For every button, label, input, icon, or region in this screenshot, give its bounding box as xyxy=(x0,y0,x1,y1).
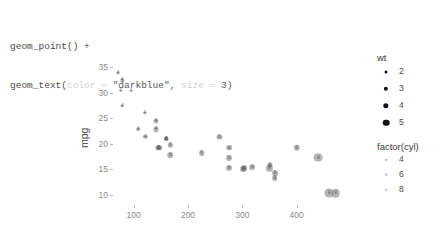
legend-factor-cyl-entry[interactable]: 6 xyxy=(377,167,419,182)
legend-factor-cyl-entries: 468 xyxy=(377,152,419,197)
data-point-label: 8 xyxy=(227,145,230,151)
legend-factor-cyl-dot-icon xyxy=(377,152,395,167)
y-tick-label: 30 xyxy=(82,88,108,98)
data-point-label: 4 xyxy=(154,119,157,125)
data-point-label: 8 xyxy=(227,166,230,172)
y-tick-mark xyxy=(110,195,113,196)
legend-wt-entry[interactable]: 5 xyxy=(377,114,387,131)
scatter-plot: mpg disp 101520253035 100200300400 44444… xyxy=(0,48,370,241)
x-tick-mark xyxy=(297,205,298,208)
data-point-label: 4 xyxy=(119,88,122,94)
legend-wt-label: 2 xyxy=(399,66,404,76)
legend-wt-label: 5 xyxy=(399,117,404,127)
plot-screenshot: geom_point() + geom_text(color = "darkbl… xyxy=(0,0,443,241)
y-tick-mark xyxy=(110,67,113,68)
data-point-label: 8 xyxy=(250,164,253,170)
data-point-label: 8 xyxy=(273,175,276,181)
y-tick-mark xyxy=(110,93,113,94)
data-point-label: 8 xyxy=(295,145,298,151)
legend-wt-label: 4 xyxy=(399,100,404,110)
legend-factor-cyl: factor(cyl) 468 xyxy=(377,141,419,197)
data-point-label: 4 xyxy=(136,127,139,133)
y-tick-label: 20 xyxy=(82,139,108,149)
data-point-label: 6 xyxy=(156,145,159,151)
data-point-label: 4 xyxy=(121,104,124,110)
data-point-label: 4 xyxy=(120,78,123,84)
y-tick-label: 25 xyxy=(82,113,108,123)
legend-factor-cyl-label: 8 xyxy=(399,184,404,194)
legend-wt-title: wt xyxy=(377,52,387,63)
data-point-label: 8 xyxy=(317,155,320,161)
legend-factor-cyl-dot-icon xyxy=(377,182,395,197)
x-tick-label: 300 xyxy=(227,210,257,220)
data-point-label: 6 xyxy=(218,134,221,140)
x-tick-mark xyxy=(134,205,135,208)
x-tick-mark xyxy=(242,205,243,208)
x-tick-mark xyxy=(188,205,189,208)
y-tick-label: 15 xyxy=(82,164,108,174)
legend-wt-dot-icon xyxy=(377,97,395,114)
legend-factor-cyl-label: 4 xyxy=(399,154,404,164)
data-point-label: 8 xyxy=(334,190,337,196)
data-point-label: 4 xyxy=(154,127,157,133)
data-point-label: 8 xyxy=(227,155,230,161)
data-point-label: 4 xyxy=(143,110,146,116)
legend-factor-cyl-label: 6 xyxy=(399,169,404,179)
data-point-label: 4 xyxy=(116,70,119,76)
legend-wt-entry[interactable]: 4 xyxy=(377,97,387,114)
data-point-label: 6 xyxy=(169,152,172,158)
data-point-label: 6 xyxy=(169,143,172,149)
legend-wt-entry[interactable]: 2 xyxy=(377,63,387,80)
data-point-label: 8 xyxy=(241,167,244,173)
data-point-label: 6 xyxy=(200,151,203,157)
y-tick-mark xyxy=(110,144,113,145)
x-tick-label: 100 xyxy=(119,210,149,220)
legend-wt-label: 3 xyxy=(399,83,404,93)
data-point-label: 4 xyxy=(143,134,146,140)
data-point-label: 4 xyxy=(129,88,132,94)
y-tick-label: 35 xyxy=(82,62,108,72)
legend-wt-entry[interactable]: 3 xyxy=(377,80,387,97)
legend-wt-dot-icon xyxy=(377,114,395,131)
data-point-label: 8 xyxy=(268,162,271,168)
legend-factor-cyl-entry[interactable]: 8 xyxy=(377,182,419,197)
x-tick-label: 400 xyxy=(282,210,312,220)
y-tick-label: 10 xyxy=(82,190,108,200)
legend-wt: wt 2345 xyxy=(377,52,387,131)
legend-factor-cyl-dot-icon xyxy=(377,167,395,182)
y-tick-mark xyxy=(110,169,113,170)
legend-factor-cyl-entry[interactable]: 4 xyxy=(377,152,419,167)
y-tick-mark xyxy=(110,118,113,119)
legend-factor-cyl-title: factor(cyl) xyxy=(377,141,419,152)
legend-wt-dot-icon xyxy=(377,80,395,97)
legend-wt-entries: 2345 xyxy=(377,63,387,131)
legend-wt-dot-icon xyxy=(377,63,395,80)
data-point-label: 6 xyxy=(165,136,168,142)
x-tick-label: 200 xyxy=(173,210,203,220)
